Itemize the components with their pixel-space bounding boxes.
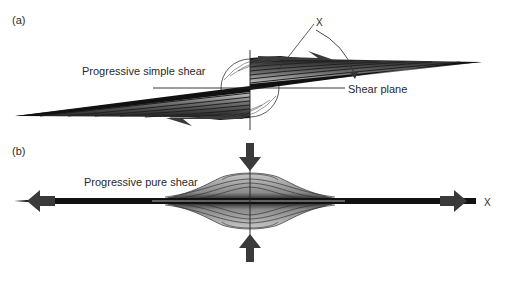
panel-a-x-label: X — [316, 17, 323, 28]
right-extension-arrow-icon — [440, 190, 467, 212]
panel-b-label: (b) — [12, 145, 25, 157]
panel-a: (a) Progressive simple shear — [12, 14, 482, 130]
panel-b-title: Progressive pure shear — [84, 176, 198, 188]
left-extension-arrow-icon — [27, 190, 55, 212]
bottom-compression-arrow-icon — [239, 234, 261, 262]
top-compression-arrow-icon — [239, 143, 261, 171]
shear-plane-label: Shear plane — [348, 83, 407, 95]
panel-a-label: (a) — [12, 14, 25, 26]
shear-diagram: (a) Progressive simple shear — [0, 0, 508, 281]
panel-b-x-label: X — [484, 197, 491, 208]
top-shear-arrow-icon — [258, 51, 334, 60]
panel-a-title: Progressive simple shear — [82, 65, 206, 77]
panel-b: (b) Progressive pure shear X — [12, 143, 491, 262]
bottom-shear-arrow-icon — [166, 116, 243, 126]
